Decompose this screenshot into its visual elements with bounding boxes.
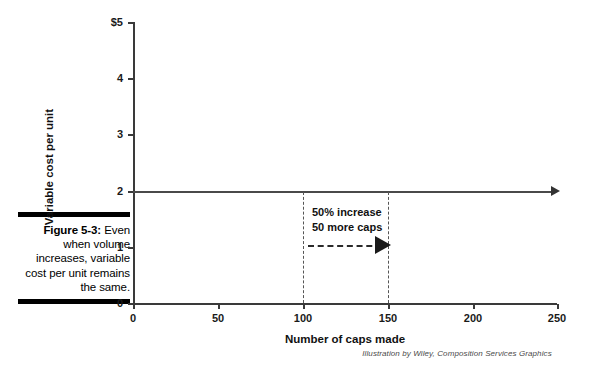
x-tick-50 bbox=[218, 304, 220, 309]
y-tick-4 bbox=[128, 78, 133, 80]
y-tick-3 bbox=[128, 134, 133, 136]
x-tick-0 bbox=[133, 304, 135, 309]
annotation-line-1: 50% increase bbox=[312, 205, 382, 220]
x-tick-label-100: 100 bbox=[283, 313, 323, 324]
y-tick-1 bbox=[128, 247, 133, 249]
y-tick-label-2: 2 bbox=[93, 186, 123, 197]
annotation-arrow-shaft bbox=[308, 245, 382, 247]
volume-increase-annotation: 50% increase 50 more caps bbox=[312, 205, 382, 235]
y-axis-title: Variable cost per unit bbox=[43, 67, 55, 267]
annotation-arrow-head-icon bbox=[375, 236, 391, 254]
variable-cost-line bbox=[133, 191, 553, 193]
x-tick-250 bbox=[557, 304, 559, 309]
x-axis-title: Number of caps made bbox=[133, 333, 557, 345]
x-tick-label-150: 150 bbox=[368, 313, 408, 324]
y-tick-label-1: 1 bbox=[93, 242, 123, 253]
chart-plot-area: 0 1 2 3 4 $5 0 50 100 150 200 250 Variab… bbox=[0, 0, 592, 379]
illustration-credit: Illustration by Wiley, Composition Servi… bbox=[332, 349, 582, 358]
x-tick-150 bbox=[388, 304, 390, 309]
x-tick-label-0: 0 bbox=[113, 313, 153, 324]
y-tick-label-3: 3 bbox=[93, 129, 123, 140]
y-tick-label-0: 0 bbox=[93, 298, 123, 309]
annotation-line-2: 50 more caps bbox=[312, 220, 382, 235]
x-tick-label-250: 250 bbox=[537, 313, 577, 324]
x-tick-200 bbox=[473, 304, 475, 309]
y-tick-5 bbox=[128, 22, 133, 24]
x-axis-line bbox=[133, 303, 557, 305]
variable-cost-line-arrow-icon bbox=[551, 186, 560, 196]
reference-line-100 bbox=[303, 192, 304, 303]
x-tick-label-200: 200 bbox=[453, 313, 493, 324]
x-tick-label-50: 50 bbox=[198, 313, 238, 324]
y-axis-line bbox=[133, 22, 135, 304]
x-tick-100 bbox=[303, 304, 305, 309]
y-tick-label-5: $5 bbox=[93, 17, 123, 28]
y-tick-label-4: 4 bbox=[93, 73, 123, 84]
